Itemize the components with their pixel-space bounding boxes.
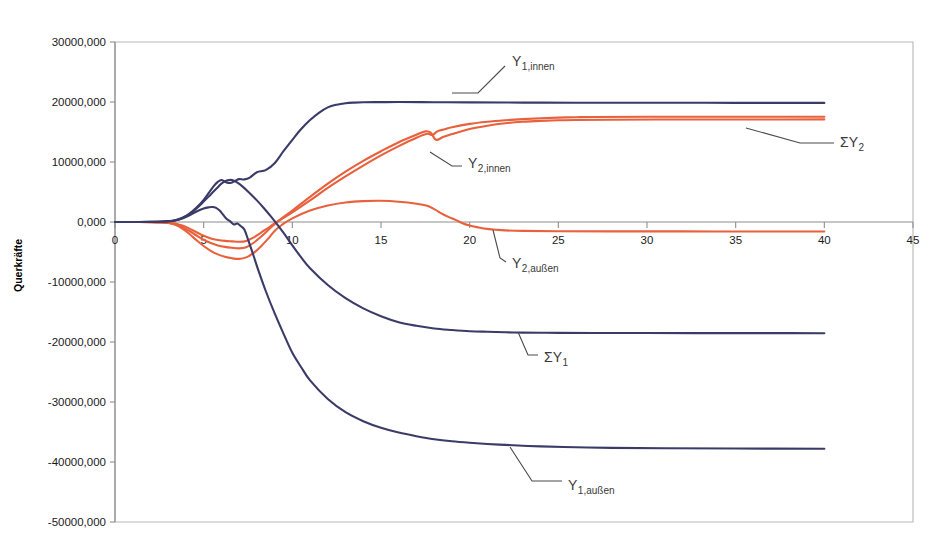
chart-background (0, 0, 939, 549)
y-tick-label: 30000,000 (52, 36, 106, 48)
x-tick-label: 20 (463, 234, 476, 246)
y-tick-label: -20000,000 (48, 336, 106, 348)
querkraefte-line-chart: 30000,00020000,00010000,0000,000-10000,0… (0, 0, 939, 549)
x-tick-label: 30 (641, 234, 654, 246)
x-tick-label: 25 (552, 234, 565, 246)
x-tick-label: 35 (729, 234, 742, 246)
x-tick-label: 45 (907, 234, 920, 246)
y-tick-label: 20000,000 (52, 96, 106, 108)
y-tick-label: -10000,000 (48, 276, 106, 288)
x-tick-label: 15 (375, 234, 388, 246)
y-axis-title: Querkräfte (12, 239, 24, 292)
y-tick-label: 0,000 (77, 216, 106, 228)
x-tick-label: 0 (112, 234, 118, 246)
y-tick-label: -40000,000 (48, 456, 106, 468)
y-tick-label: 10000,000 (52, 156, 106, 168)
y-tick-label: -30000,000 (48, 396, 106, 408)
chart-container: 30000,00020000,00010000,0000,000-10000,0… (0, 0, 939, 549)
y-tick-label: -50000,000 (48, 516, 106, 528)
y-axis-title-group: Querkräfte (12, 239, 24, 292)
x-tick-label: 40 (818, 234, 831, 246)
